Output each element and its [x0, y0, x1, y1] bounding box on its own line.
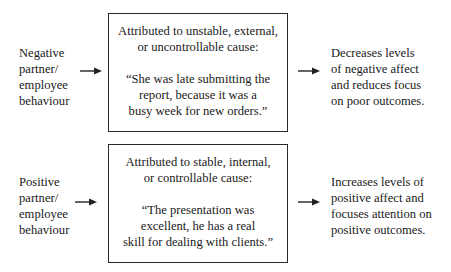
box-title: Attributed to unstable, external, or unc… [109, 23, 287, 55]
box-quote: “The presentation was excellent, he has … [109, 202, 287, 250]
positive-behaviour-label: Positive partner/ employee behaviour [19, 174, 69, 238]
unstable-attribution-box: Attributed to unstable, external, or unc… [108, 13, 288, 132]
positive-outcome-label: Increases levels of positive affect and … [331, 174, 432, 238]
negative-behaviour-label: Negative partner/ employee behaviour [19, 45, 69, 109]
arrow-right-icon [80, 67, 102, 75]
box-title: Attributed to stable, internal, or contr… [109, 154, 287, 186]
stable-attribution-box: Attributed to stable, internal, or contr… [108, 144, 288, 263]
negative-outcome-label: Decreases levels of negative affect and … [331, 45, 424, 109]
arrow-right-icon [75, 198, 97, 206]
box-quote: “She was late submitting the report, bec… [109, 71, 287, 119]
arrow-right-icon [298, 198, 320, 206]
arrow-right-icon [298, 67, 320, 75]
